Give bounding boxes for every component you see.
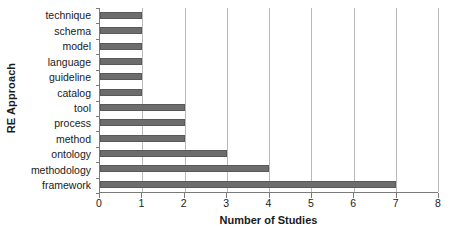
gridline [438,8,439,192]
x-axis-tick-label: 6 [350,198,356,209]
bar-row [100,146,438,161]
bar [100,104,185,111]
bar-row [100,161,438,176]
bar [100,181,396,188]
bar-row [100,131,438,146]
x-axis-tick-label: 1 [138,198,144,209]
x-axis-tick-label: 4 [266,198,272,209]
y-axis-category-label: methodology [18,162,95,177]
y-axis-category-label: guideline [18,70,95,85]
y-axis-category-label: ontology [18,147,95,162]
bar [100,135,185,142]
y-axis-category-label: schema [18,23,95,38]
x-axis-title: Number of Studies [99,214,438,226]
y-axis-category-label: language [18,54,95,69]
x-axis-tick-labels: 012345678 [99,198,438,214]
y-axis-category-label: model [18,39,95,54]
bar-row [100,23,438,38]
y-axis-category-label: tool [18,101,95,116]
bar-row [100,69,438,84]
bar [100,12,142,19]
y-axis-category-label: technique [18,8,95,23]
x-axis-tick-label: 2 [181,198,187,209]
y-axis-category-label: framework [18,178,95,193]
x-axis-tick-label: 0 [96,198,102,209]
y-axis-title-text: RE Approach [5,62,17,132]
x-axis-tick-label: 7 [393,198,399,209]
y-axis-category-label: process [18,116,95,131]
bar [100,58,142,65]
bar-row [100,54,438,69]
bar-row [100,8,438,23]
bar [100,43,142,50]
y-axis-category-label: method [18,131,95,146]
y-axis-category-label: catalog [18,85,95,100]
bar [100,27,142,34]
bar-row [100,115,438,130]
bar [100,150,227,157]
x-axis-tick-label: 5 [308,198,314,209]
x-axis-tick-label: 3 [223,198,229,209]
bar [100,165,269,172]
bar-row [100,85,438,100]
bar-row [100,39,438,54]
plot-area [99,8,438,193]
x-axis-tick-label: 8 [435,198,441,209]
bar [100,73,142,80]
bar-row [100,100,438,115]
y-axis-category-labels: techniqueschemamodellanguageguidelinecat… [18,8,95,193]
bar-row [100,177,438,192]
bar-chart-figure: RE Approach techniqueschemamodellanguage… [0,0,452,235]
bar [100,119,185,126]
bar-series [100,8,438,192]
bar [100,89,142,96]
